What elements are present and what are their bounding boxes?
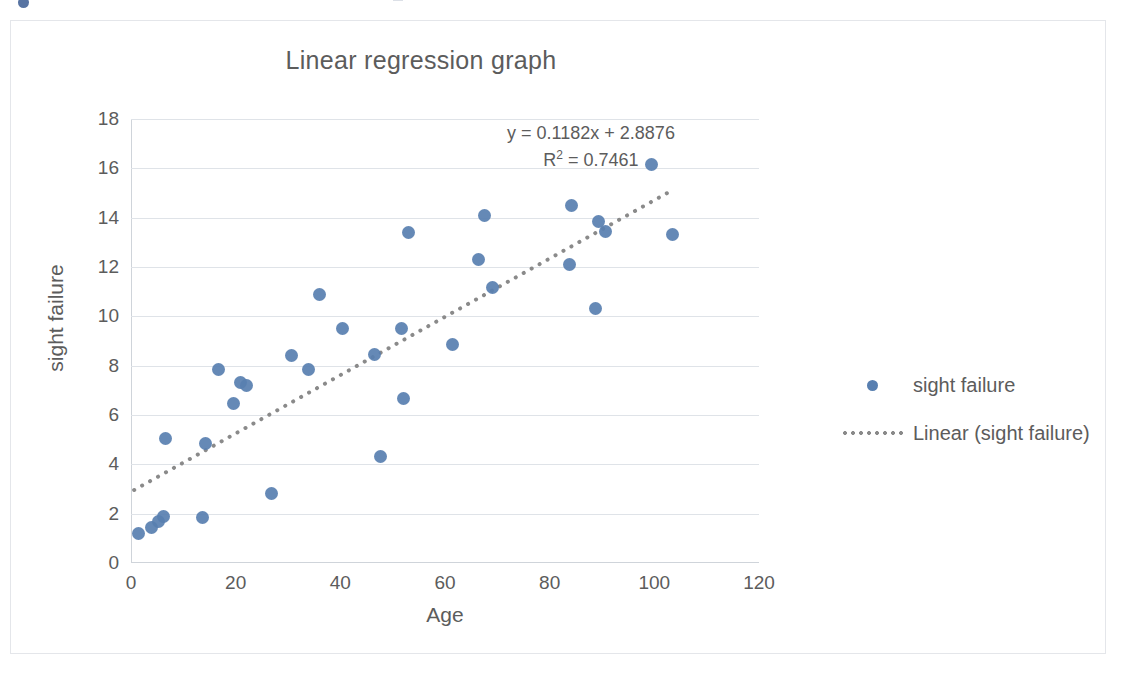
x-axis-tick-label: 120 — [743, 572, 775, 594]
gridline — [131, 514, 759, 515]
y-axis-tick-label: 2 — [108, 502, 119, 524]
regression-annotation: y = 0.1182x + 2.8876 R2 = 0.7461 — [441, 121, 741, 173]
scatter-point[interactable] — [374, 450, 387, 463]
scatter-point[interactable] — [240, 379, 253, 392]
scatter-point[interactable] — [565, 199, 578, 212]
x-axis-tick-label: 80 — [539, 572, 560, 594]
regression-r-squared: R2 = 0.7461 — [441, 147, 741, 174]
x-axis-line — [131, 562, 759, 563]
chart-area[interactable]: Linear regression graph sight failure 02… — [10, 20, 1106, 654]
y-axis-tick-label: 0 — [108, 552, 119, 574]
scatter-point[interactable] — [395, 322, 408, 335]
scatter-point[interactable] — [227, 397, 240, 410]
scatter-point[interactable] — [486, 281, 499, 294]
page-top-artifact-dot — [18, 0, 29, 8]
scatter-point[interactable] — [212, 363, 225, 376]
scatter-point[interactable] — [397, 392, 410, 405]
y-axis-tick-label: 6 — [108, 404, 119, 426]
scatter-point[interactable] — [336, 322, 349, 335]
y-axis-tick-label: 12 — [98, 256, 119, 278]
scatter-point[interactable] — [157, 510, 170, 523]
y-axis-tick-label: 16 — [98, 157, 119, 179]
page-canvas: Linear regression graph sight failure 02… — [0, 0, 1123, 686]
gridline — [131, 119, 759, 120]
scatter-point[interactable] — [285, 349, 298, 362]
x-axis-tick-label: 100 — [638, 572, 670, 594]
legend-label-sight-failure: sight failure — [913, 374, 1015, 397]
scatter-point[interactable] — [159, 432, 172, 445]
y-axis-tick-label: 4 — [108, 453, 119, 475]
chart-legend[interactable]: sight failure Linear (sight failure) — [831, 361, 1096, 457]
gridline — [131, 218, 759, 219]
scatter-point[interactable] — [666, 228, 679, 241]
scatter-point[interactable] — [199, 437, 212, 450]
scatter-point[interactable] — [563, 258, 576, 271]
gridline — [131, 316, 759, 317]
gridline — [131, 267, 759, 268]
x-axis-tick-label: 60 — [434, 572, 455, 594]
r2-value: = 0.7461 — [563, 150, 639, 170]
scatter-point[interactable] — [196, 511, 209, 524]
y-axis-tick-label: 10 — [98, 305, 119, 327]
legend-dotted-line-icon — [831, 431, 913, 435]
scatter-point[interactable] — [368, 348, 381, 361]
scatter-point[interactable] — [446, 338, 459, 351]
scatter-point[interactable] — [599, 225, 612, 238]
r2-prefix: R — [543, 150, 556, 170]
y-axis-title: sight failure — [44, 238, 68, 398]
y-axis-tick-label: 14 — [98, 206, 119, 228]
scatter-point[interactable] — [265, 487, 278, 500]
x-axis-tick-label: 40 — [330, 572, 351, 594]
legend-item-linear-trend[interactable]: Linear (sight failure) — [831, 409, 1096, 457]
chart-title: Linear regression graph — [11, 46, 831, 75]
trendline — [131, 119, 759, 563]
scatter-point[interactable] — [132, 527, 145, 540]
scatter-point[interactable] — [302, 363, 315, 376]
y-axis-tick-label: 18 — [98, 108, 119, 130]
x-axis-tick-label: 0 — [126, 572, 137, 594]
x-axis-tick-label: 20 — [225, 572, 246, 594]
plot-area[interactable]: 024681012141618 020406080100120 y = 0.11… — [131, 119, 759, 563]
scatter-point[interactable] — [478, 209, 491, 222]
y-axis-tick-label: 8 — [108, 354, 119, 376]
page-top-artifact-tick — [393, 0, 403, 1]
scatter-point[interactable] — [589, 302, 602, 315]
scatter-point[interactable] — [313, 288, 326, 301]
gridline — [131, 415, 759, 416]
y-axis-line — [131, 119, 132, 563]
regression-equation: y = 0.1182x + 2.8876 — [441, 121, 741, 147]
scatter-point[interactable] — [402, 226, 415, 239]
scatter-point[interactable] — [472, 253, 485, 266]
legend-item-sight-failure[interactable]: sight failure — [831, 361, 1096, 409]
legend-marker-icon — [831, 380, 913, 391]
x-axis-title: Age — [131, 603, 759, 627]
gridline — [131, 366, 759, 367]
gridline — [131, 464, 759, 465]
legend-label-linear-trend: Linear (sight failure) — [913, 422, 1090, 445]
